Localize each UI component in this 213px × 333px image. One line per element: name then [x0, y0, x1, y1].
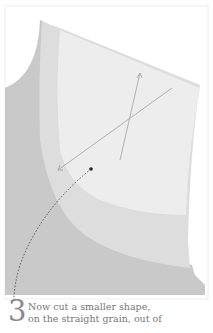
caption-line-1: Now cut a smaller shape, — [28, 301, 150, 313]
sewing-illustration — [0, 0, 213, 300]
caption-line-2: on the straight grain, out of — [28, 313, 162, 325]
step-number: 3 — [8, 297, 26, 326]
